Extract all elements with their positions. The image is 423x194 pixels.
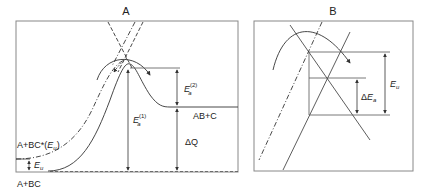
label-eu-b: Eu [390,79,400,90]
ascending-line [283,32,350,170]
panel-a-title: A [122,5,130,17]
panel-b: B ΔEa Eu [254,5,413,171]
diagram-canvas: A A+BC A+BC*(Eu) Eu AB+C [0,0,423,194]
label-reactants: A+BC [17,179,41,189]
trajectory-arrow [97,59,150,80]
label-ea1: E(1)a [133,113,146,127]
label-delta-q: ΔQ [185,137,198,147]
label-delta-ea: ΔEa [361,92,377,103]
label-excited-reactants: A+BC*(Eu) [17,140,60,151]
dashdot-line [259,22,322,160]
crossing-line-1 [108,22,132,68]
label-products: AB+C [193,111,217,121]
panel-b-title: B [329,5,336,17]
label-ea2: E(2)a [184,82,197,96]
panel-a: A A+BC A+BC*(Eu) Eu AB+C [16,5,238,189]
descending-line [290,25,370,140]
trajectory-arrow-b [273,32,350,70]
label-eu: Eu [34,160,44,171]
